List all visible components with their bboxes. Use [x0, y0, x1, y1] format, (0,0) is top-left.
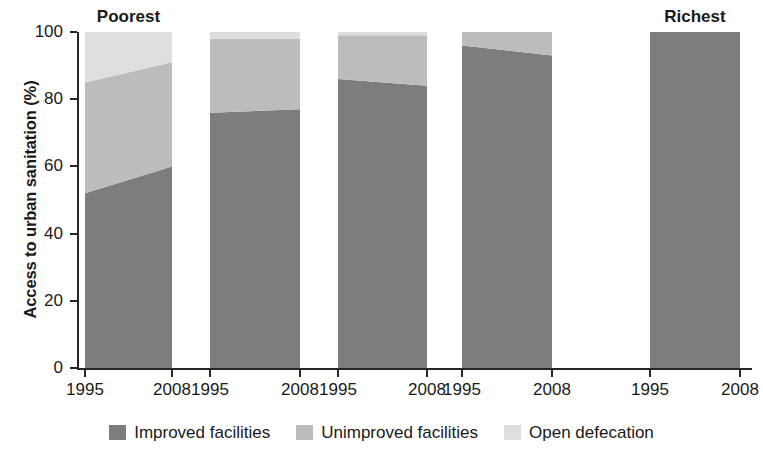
y-tick-label: 0 — [19, 359, 63, 376]
chart-legend: Improved facilitiesUnimproved facilities… — [0, 424, 763, 441]
legend-swatch-icon — [504, 425, 521, 440]
legend-item: Unimproved facilities — [296, 424, 478, 441]
x-tick-mark — [739, 370, 741, 377]
area-band — [462, 45, 552, 368]
y-tick-mark — [70, 233, 77, 235]
area-band — [338, 35, 427, 85]
legend-swatch-icon — [109, 425, 126, 440]
area-band — [338, 32, 427, 35]
y-tick-label: 40 — [19, 225, 63, 242]
area-band — [85, 166, 172, 368]
legend-item: Improved facilities — [109, 424, 270, 441]
plot-area: 1008060402001995200819952008199520081995… — [0, 0, 763, 456]
y-tick-mark — [70, 300, 77, 302]
legend-swatch-icon — [296, 425, 313, 440]
x-tick-label: 1995 — [180, 381, 240, 398]
x-tick-mark — [551, 370, 553, 377]
x-tick-label: 2008 — [522, 381, 582, 398]
x-tick-mark — [299, 370, 301, 377]
y-tick-label: 60 — [19, 157, 63, 174]
legend-item: Open defecation — [504, 424, 654, 441]
x-tick-mark — [209, 370, 211, 377]
legend-label: Improved facilities — [134, 424, 270, 441]
area-band — [210, 39, 300, 113]
x-tick-mark — [84, 370, 86, 377]
y-tick-mark — [70, 98, 77, 100]
x-tick-label: 2008 — [710, 381, 763, 398]
stacked-bar-richest — [650, 32, 740, 368]
y-tick-label: 20 — [19, 292, 63, 309]
stacked-bar-quintile-4 — [462, 32, 552, 368]
group-header-poorest: Poorest — [59, 8, 199, 25]
area-band — [338, 79, 427, 368]
y-tick-mark — [70, 165, 77, 167]
area-band — [650, 32, 740, 368]
x-tick-label: 1995 — [432, 381, 492, 398]
stacked-bar-quintile-2 — [210, 32, 300, 368]
area-band — [210, 32, 300, 39]
x-tick-mark — [426, 370, 428, 377]
legend-label: Unimproved facilities — [321, 424, 478, 441]
x-tick-mark — [649, 370, 651, 377]
y-tick-label: 100 — [19, 23, 63, 40]
x-tick-label: 1995 — [620, 381, 680, 398]
stacked-bar-poorest — [85, 32, 172, 368]
group-header-richest: Richest — [625, 8, 763, 25]
stacked-bar-quintile-3 — [338, 32, 427, 368]
y-tick-label: 80 — [19, 90, 63, 107]
x-tick-mark — [461, 370, 463, 377]
x-tick-mark — [337, 370, 339, 377]
x-tick-label: 1995 — [55, 381, 115, 398]
y-tick-mark — [70, 367, 77, 369]
area-band — [210, 109, 300, 368]
y-axis-line — [77, 32, 79, 368]
x-tick-label: 1995 — [308, 381, 368, 398]
y-tick-mark — [70, 31, 77, 33]
x-tick-mark — [171, 370, 173, 377]
legend-label: Open defecation — [529, 424, 654, 441]
sanitation-stacked-area-chart: Access to urban sanitation (%) 100806040… — [0, 0, 763, 456]
